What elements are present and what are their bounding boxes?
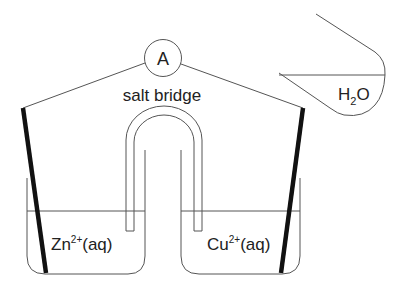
zinc-electrode bbox=[23, 108, 46, 273]
water-beaker: H2O bbox=[279, 14, 385, 116]
ammeter-label: A bbox=[157, 49, 169, 69]
galvanic-cell-diagram: A salt bridge Zn2+(aq) Cu2+(aq) H2O bbox=[0, 0, 403, 290]
water-label: H2O bbox=[338, 85, 370, 107]
salt-bridge bbox=[126, 106, 202, 231]
zinc-solution-label: Zn2+(aq) bbox=[51, 234, 112, 254]
copper-solution-label: Cu2+(aq) bbox=[207, 234, 270, 254]
salt-bridge-label: salt bridge bbox=[123, 86, 201, 105]
ammeter: A bbox=[145, 40, 182, 77]
